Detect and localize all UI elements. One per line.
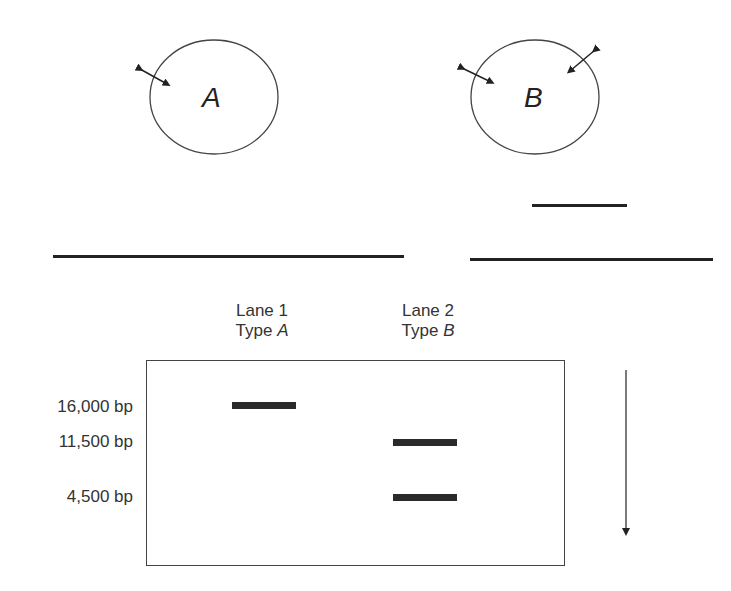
plasmid-a-cut-site-arrow-icon (140, 69, 167, 84)
band-lane2-4500 (393, 494, 457, 501)
lane-1-type-prefix: Type (236, 321, 278, 340)
lane-2-type: Type B (378, 321, 478, 341)
fragment-b-large (470, 258, 713, 261)
plasmid-b-cut-site-arrow-icon (570, 50, 595, 71)
band-lane1-16000 (232, 402, 296, 409)
size-marker-16000: 16,000 bp (57, 398, 133, 415)
band-lane2-11500 (393, 439, 457, 446)
lane-2-type-prefix: Type (402, 321, 444, 340)
lane-2-heading: Lane 2 Type B (378, 301, 478, 341)
lane-2-number: Lane 2 (378, 301, 478, 321)
lane-1-type-letter: A (277, 321, 288, 340)
plasmid-b-cut-site-arrow-icon (462, 68, 491, 82)
fragment-a-linear (53, 255, 404, 258)
gel-box (146, 360, 565, 566)
fragment-b-small (532, 204, 627, 207)
lane-1-number: Lane 1 (212, 301, 312, 321)
size-marker-4500: 4,500 bp (67, 488, 133, 505)
plasmid-a-label: A (202, 82, 221, 114)
lane-2-type-letter: B (443, 321, 454, 340)
plasmid-b-label: B (524, 82, 543, 114)
lane-1-heading: Lane 1 Type A (212, 301, 312, 341)
lane-1-type: Type A (212, 321, 312, 341)
size-marker-11500: 11,500 bp (59, 433, 133, 450)
